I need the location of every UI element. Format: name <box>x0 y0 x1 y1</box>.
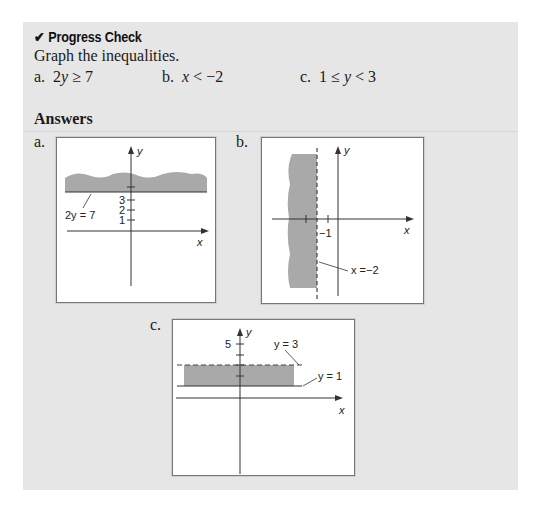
graph-a: 3 2 1 y x 2y = 7 <box>56 137 216 303</box>
x-axis-arrow-icon <box>335 395 343 401</box>
x-axis-arrow-icon <box>201 228 209 234</box>
graph-c: 5 y x y = 3 y = 1 <box>172 319 355 476</box>
lower-boundary-label: y = 1 <box>318 370 342 382</box>
x-axis-label: x <box>403 224 410 236</box>
expr-part: < −2 <box>189 68 223 85</box>
shaded-region <box>288 154 317 288</box>
expr-part: ≥ 7 <box>68 68 93 85</box>
tick-label: −1 <box>319 227 332 239</box>
tick-label: 1 <box>119 214 125 226</box>
expr-part: < 3 <box>351 68 376 85</box>
expr-part: 1 ≤ <box>319 68 344 85</box>
x-axis-arrow-icon <box>406 216 414 222</box>
graph-c-label: c. <box>150 316 161 334</box>
shaded-region <box>65 172 207 192</box>
problem-c: c. 1 ≤ y < 3 <box>300 68 376 86</box>
problem-label: b. <box>162 68 174 85</box>
y-axis-label: y <box>136 145 144 157</box>
graph-b-plot: −1 y x x =−2 <box>262 138 423 303</box>
x-axis-label: x <box>196 236 203 248</box>
tick-label: 5 <box>225 338 231 350</box>
progress-check-heading: ✔Progress Check <box>34 29 142 45</box>
y-axis-arrow-icon <box>128 146 134 154</box>
divider <box>23 131 518 132</box>
heading-title: Progress Check <box>48 29 141 45</box>
graph-c-plot: 5 y x y = 3 y = 1 <box>173 320 354 475</box>
y-axis-label: y <box>245 326 253 338</box>
checkmark-icon: ✔ <box>34 29 45 45</box>
leader-line <box>83 194 91 208</box>
graph-a-label: a. <box>34 133 45 151</box>
boundary-label: 2y = 7 <box>65 209 95 221</box>
problem-b: b. x < −2 <box>162 68 223 86</box>
leader-line <box>303 378 317 386</box>
y-axis-arrow-icon <box>237 328 243 336</box>
leader-line <box>285 350 299 365</box>
expr-var: y <box>344 68 351 85</box>
x-axis-label: x <box>338 404 345 416</box>
problem-label: c. <box>300 68 311 85</box>
leader-line <box>319 262 348 271</box>
y-axis-label: y <box>343 144 351 156</box>
instruction-text: Graph the inequalities. <box>34 47 179 65</box>
problem-a: a. 2y ≥ 7 <box>34 68 93 86</box>
answers-heading: Answers <box>34 110 93 128</box>
graph-a-plot: 3 2 1 y x 2y = 7 <box>57 138 215 302</box>
expr-part: 2 <box>53 68 61 85</box>
upper-boundary-label: y = 3 <box>274 338 298 350</box>
problem-label: a. <box>34 68 45 85</box>
graph-b: −1 y x x =−2 <box>261 137 424 304</box>
y-axis-arrow-icon <box>335 146 341 154</box>
boundary-label: x =−2 <box>351 264 379 276</box>
graph-b-label: b. <box>236 133 248 151</box>
